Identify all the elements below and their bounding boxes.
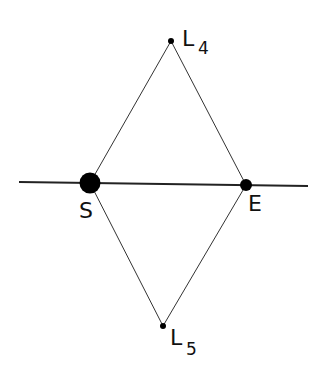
l4-subscript: 4 [198, 40, 209, 57]
edge-l5-e [163, 185, 246, 326]
earth-dot [240, 179, 252, 191]
sun-dot [80, 173, 101, 194]
l5-dot [160, 323, 166, 329]
l5-label: L 5 [170, 327, 182, 349]
lagrange-diagram [0, 0, 326, 377]
l4-label: L 4 [182, 28, 194, 50]
earth-letter: E [248, 191, 262, 216]
sun-letter: S [79, 198, 93, 223]
sun-earth-baseline [19, 182, 308, 186]
l4-dot [168, 38, 174, 44]
edge-l4-e [171, 41, 246, 185]
l5-letter: L [170, 325, 182, 350]
l4-letter: L [182, 26, 194, 51]
l5-subscript: 5 [186, 341, 197, 358]
earth-label: E [248, 193, 262, 215]
sun-label: S [79, 200, 93, 222]
edge-s-l5 [90, 183, 163, 326]
edge-s-l4 [90, 41, 171, 183]
